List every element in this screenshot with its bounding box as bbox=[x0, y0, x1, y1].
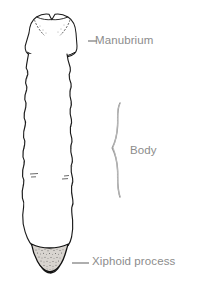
xiphoid-outline bbox=[32, 244, 69, 272]
body-region bbox=[22, 54, 73, 246]
manubrium-region bbox=[25, 14, 77, 57]
figure-canvas: Manubrium Body Xiphoid process bbox=[0, 0, 197, 288]
body-brace bbox=[112, 103, 120, 197]
label-body: Body bbox=[130, 144, 157, 157]
label-xiphoid-process: Xiphoid process bbox=[92, 255, 175, 268]
manubrium-outline bbox=[25, 14, 77, 57]
xiphoid-process-region bbox=[32, 244, 69, 274]
body-fill bbox=[22, 54, 73, 246]
label-manubrium: Manubrium bbox=[95, 34, 153, 47]
